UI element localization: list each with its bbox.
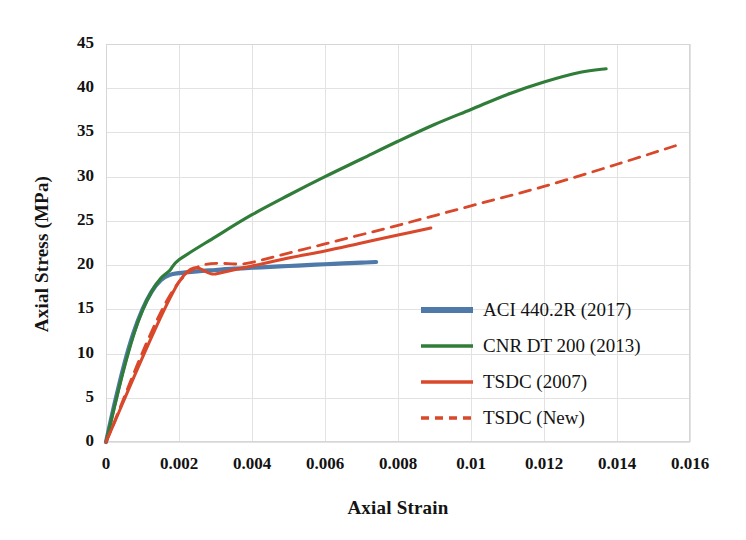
y-tick-label: 25	[50, 210, 94, 230]
legend-item-label: CNR DT 200 (2013)	[483, 335, 640, 357]
legend-item[interactable]: CNR DT 200 (2013)	[420, 328, 640, 364]
y-tick-label: 15	[50, 298, 94, 318]
legend-item[interactable]: TSDC (2007)	[420, 364, 640, 400]
legend-swatch-icon	[420, 411, 474, 425]
y-tick-label: 35	[50, 121, 94, 141]
y-tick-label: 20	[50, 254, 94, 274]
legend-swatch-icon	[420, 303, 474, 317]
y-tick-label: 5	[50, 387, 94, 407]
y-tick-label: 30	[50, 166, 94, 186]
legend-item[interactable]: ACI 440.2R (2017)	[420, 292, 640, 328]
x-tick-label: 0.016	[671, 454, 709, 474]
x-tick-label: 0.014	[598, 454, 636, 474]
x-tick-label: 0.012	[525, 454, 563, 474]
legend-swatch-icon	[420, 375, 474, 389]
x-tick-label: 0	[102, 454, 111, 474]
x-tick-label: 0.008	[379, 454, 417, 474]
x-tick-label: 0.002	[160, 454, 198, 474]
y-tick-label: 10	[50, 343, 94, 363]
legend-item[interactable]: TSDC (New)	[420, 400, 640, 436]
y-tick-label: 45	[50, 33, 94, 53]
legend-item-label: ACI 440.2R (2017)	[483, 299, 631, 321]
x-tick-label: 0.01	[456, 454, 486, 474]
x-tick-label: 0.006	[306, 454, 344, 474]
gridline-vertical	[690, 44, 691, 442]
y-tick-label: 0	[50, 431, 94, 451]
chart-legend: ACI 440.2R (2017)CNR DT 200 (2013)TSDC (…	[420, 292, 640, 436]
legend-item-label: TSDC (2007)	[483, 371, 587, 393]
legend-swatch-icon	[420, 339, 474, 353]
gridline-horizontal	[106, 442, 690, 443]
stress-strain-chart: Axial Stress (MPa) Axial Strain 05101520…	[0, 0, 746, 540]
x-tick-label: 0.004	[233, 454, 271, 474]
legend-item-label: TSDC (New)	[483, 407, 585, 429]
series-line	[106, 228, 431, 442]
y-tick-label: 40	[50, 77, 94, 97]
x-axis-title: Axial Strain	[106, 497, 690, 519]
